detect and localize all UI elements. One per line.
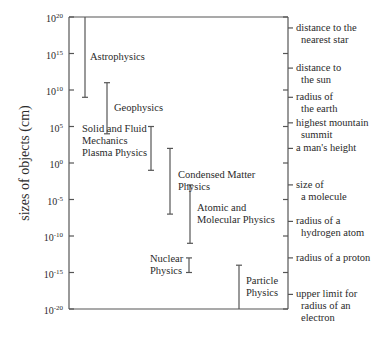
y-tick-label: 10-15 <box>29 267 63 280</box>
y-tick-label: 10-10 <box>29 230 63 243</box>
reference-label: upper limit forradius of anelectron <box>296 288 357 324</box>
reference-label: radius of a proton <box>296 252 370 264</box>
reference-label: size ofa molecule <box>296 179 347 203</box>
range-label: ParticlePhysics <box>246 275 278 299</box>
y-tick-label: 1015 <box>29 48 63 61</box>
y-tick-label: 10-20 <box>29 303 63 316</box>
reference-label: distance to thenearest star <box>296 22 357 46</box>
reference-label: radius of ahydrogen atom <box>296 215 364 239</box>
reference-label: a man's height <box>296 142 356 154</box>
range-label: Atomic andMolecular Physics <box>197 202 275 226</box>
y-tick-label: 105 <box>29 121 63 134</box>
range-label: NuclearPhysics <box>150 253 183 277</box>
range-label: Solid and FluidMechanicsPlasma Physics <box>82 123 147 159</box>
range-label: Astrophysics <box>90 51 145 63</box>
y-tick-label: 1020 <box>29 11 63 24</box>
range-label: Geophysics <box>114 102 163 114</box>
reference-label: distance tothe sun <box>296 62 341 86</box>
reference-label: radius ofthe earth <box>296 91 337 115</box>
reference-label: highest mountainsummit <box>296 117 369 141</box>
range-label: Condensed MatterPhysics <box>178 169 255 193</box>
y-tick-label: 100 <box>29 157 63 170</box>
y-tick-label: 1010 <box>29 84 63 97</box>
y-tick-label: 10-5 <box>29 194 63 207</box>
